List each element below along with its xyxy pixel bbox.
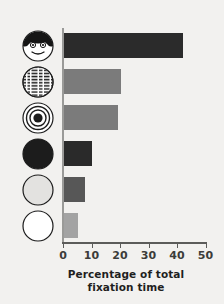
chart-row: [0, 100, 224, 136]
chart-row: [0, 172, 224, 208]
fixation-time-bar-chart: 0 10 20 30 40 50 Percentage of total fix…: [0, 0, 224, 304]
bar-face: [64, 33, 184, 58]
bar-black-disc: [64, 141, 93, 166]
bar-white-disc: [64, 213, 78, 238]
x-tick: [177, 243, 178, 248]
bar-printed-text: [64, 69, 121, 94]
x-tick: [149, 243, 150, 248]
black-disc-icon: [17, 138, 59, 170]
chart-row: [0, 208, 224, 244]
x-tick-label: 20: [108, 249, 132, 262]
x-tick: [92, 243, 93, 248]
face-icon: [17, 30, 59, 62]
bullseye-icon: [17, 102, 59, 134]
x-tick: [120, 243, 121, 248]
gray-disc-icon: [17, 174, 59, 206]
x-tick-label: 10: [80, 249, 104, 262]
x-tick-label: 50: [194, 249, 218, 262]
bar-gray-disc: [64, 177, 86, 202]
x-axis-title: Percentage of total fixation time: [36, 268, 216, 294]
x-axis-title-line1: Percentage of total: [36, 268, 216, 281]
x-tick-label: 0: [51, 249, 75, 262]
chart-row: [0, 28, 224, 64]
x-tick-label: 40: [165, 249, 189, 262]
chart-row: [0, 64, 224, 100]
chart-row: [0, 136, 224, 172]
bar-bullseye: [64, 105, 118, 130]
x-tick: [206, 243, 207, 248]
x-tick: [63, 243, 64, 248]
printed-text-icon: [17, 66, 59, 98]
x-axis-line: [62, 242, 207, 244]
x-tick-label: 30: [137, 249, 161, 262]
plot-area: 0 10 20 30 40 50 Percentage of total fix…: [0, 0, 224, 304]
white-disc-icon: [17, 210, 59, 242]
x-axis-title-line2: fixation time: [36, 281, 216, 294]
